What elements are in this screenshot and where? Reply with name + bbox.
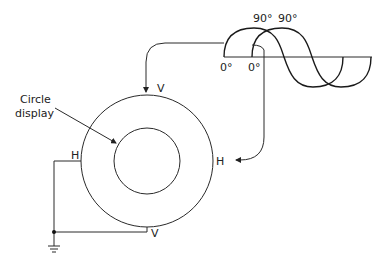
wave1-peak-label: 90° (253, 12, 273, 25)
wave2-peak-label: 90° (278, 12, 298, 25)
callout-line2: display (15, 107, 55, 120)
circle-display-diagram: 90° 90° 0° 0° Circle display V H H V (0, 0, 386, 267)
wave2-start-label: 0° (248, 61, 261, 74)
top-v-label: V (157, 82, 165, 95)
bottom-v-label: V (151, 227, 159, 240)
bottom-v-lead (54, 227, 147, 232)
callout-line1: Circle (20, 93, 51, 106)
junction-dot (52, 230, 56, 234)
right-h-label: H (216, 155, 224, 168)
ground-icon (48, 246, 60, 252)
crt-outer-circle (81, 95, 213, 227)
left-h-label: H (71, 149, 79, 162)
left-h-lead (54, 161, 81, 246)
circle-display-trace (114, 128, 180, 194)
wave1-start-label: 0° (220, 61, 233, 74)
